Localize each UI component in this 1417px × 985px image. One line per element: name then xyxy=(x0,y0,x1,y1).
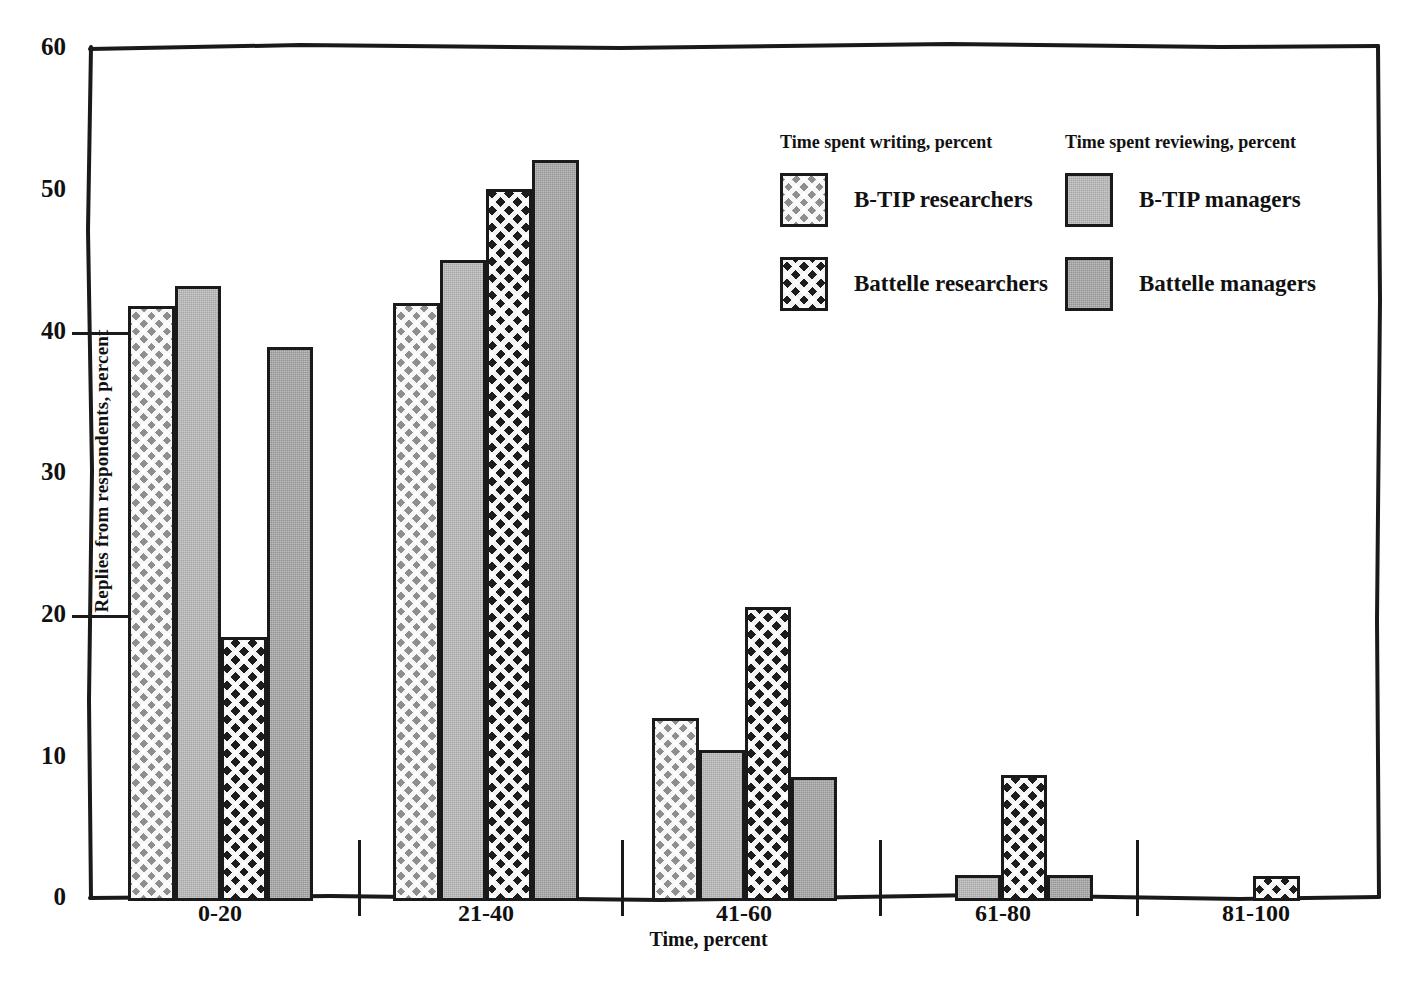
x-tick-81-100: 81-100 xyxy=(1156,900,1356,927)
legend-label-btip-managers: B-TIP managers xyxy=(1139,187,1301,213)
legend-swatch-battelle-researchers xyxy=(780,257,828,311)
x-group-separator-4 xyxy=(1136,840,1139,916)
legend-label-battelle-managers: Battelle managers xyxy=(1139,271,1316,297)
legend-item-battelle-managers: Battelle managers xyxy=(1065,251,1335,317)
bar-g2-battelle-managers xyxy=(532,160,579,901)
bar-g5-battelle-researchers xyxy=(1253,876,1300,901)
y-tick-0: 0 xyxy=(8,884,66,909)
x-tick-41-60: 41-60 xyxy=(644,900,844,927)
legend-swatch-btip-managers xyxy=(1065,173,1113,227)
bar-g2-btip-researchers xyxy=(393,303,440,901)
bar-g3-battelle-researchers xyxy=(745,607,791,901)
legend-label-battelle-researchers: Battelle researchers xyxy=(854,271,1048,297)
y-axis-label: Replies from respondents, percent xyxy=(91,261,113,681)
bar-g1-btip-researchers xyxy=(128,306,175,901)
legend-swatch-btip-researchers xyxy=(780,173,828,227)
x-axis-label: Time, percent xyxy=(0,928,1417,951)
legend-swatch-battelle-managers xyxy=(1065,257,1113,311)
y-tick-40: 40 xyxy=(8,318,66,343)
y-tick-30: 30 xyxy=(8,459,66,484)
legend-heading-writing: Time spent writing, percent xyxy=(780,132,1050,153)
bar-g1-battelle-managers xyxy=(267,347,313,901)
bar-g3-btip-researchers xyxy=(652,718,699,901)
x-tick-0-20: 0-20 xyxy=(120,900,320,927)
x-group-separator-2 xyxy=(621,840,624,916)
y-tick-50: 50 xyxy=(8,176,66,201)
bar-g3-battelle-managers xyxy=(791,777,837,901)
x-tick-61-80: 61-80 xyxy=(903,900,1103,927)
bar-g4-battelle-researchers xyxy=(1001,775,1047,901)
legend-column-reviewing: Time spent reviewing, percent B-TIP mana… xyxy=(1065,132,1335,335)
bar-g2-btip-managers xyxy=(440,260,486,901)
y-tick-20: 20 xyxy=(8,601,66,626)
legend-heading-reviewing: Time spent reviewing, percent xyxy=(1065,132,1335,153)
x-group-separator-1 xyxy=(358,840,361,916)
bar-g3-btip-managers xyxy=(699,750,745,901)
x-group-separator-3 xyxy=(879,840,882,916)
bar-g2-battelle-researchers xyxy=(486,189,532,901)
bar-g4-battelle-managers xyxy=(1047,875,1093,901)
y-tick-60: 60 xyxy=(8,34,66,59)
legend-item-btip-researchers: B-TIP researchers xyxy=(780,167,1050,233)
y-tickmark-20 xyxy=(72,615,128,618)
legend-item-btip-managers: B-TIP managers xyxy=(1065,167,1335,233)
bar-g1-btip-managers xyxy=(175,286,221,901)
chart-legend: Time spent writing, percent B-TIP resear… xyxy=(780,132,1340,312)
legend-column-writing: Time spent writing, percent B-TIP resear… xyxy=(780,132,1050,335)
legend-label-btip-researchers: B-TIP researchers xyxy=(854,187,1033,213)
bar-chart-figure: Replies from respondents, percent 60 50 … xyxy=(0,0,1417,985)
bar-g1-battelle-researchers xyxy=(221,637,267,901)
y-tickmark-40 xyxy=(72,332,128,335)
bar-g4-btip-managers xyxy=(955,875,1001,901)
y-tick-10: 10 xyxy=(8,743,66,768)
x-tick-21-40: 21-40 xyxy=(386,900,586,927)
legend-item-battelle-researchers: Battelle researchers xyxy=(780,251,1050,317)
